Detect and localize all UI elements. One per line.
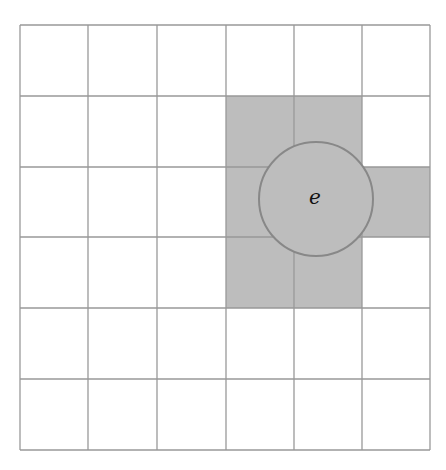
grid-diagram: e	[0, 0, 446, 470]
circle-label: e	[309, 185, 321, 209]
grid-lines	[20, 25, 430, 450]
shaded-cell	[226, 237, 294, 308]
